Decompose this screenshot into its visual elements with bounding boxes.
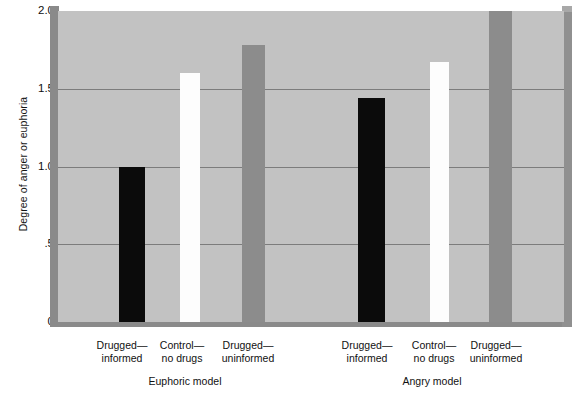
category-label-line1: Drugged—	[471, 339, 522, 351]
group-label: Euphoric model	[95, 375, 275, 387]
category-label-line1: Drugged—	[223, 339, 274, 351]
y-tick-1-0: 1.0	[18, 161, 54, 173]
bar	[358, 98, 385, 322]
category-label-group: Drugged—informedControl—no drugsDrugged—…	[0, 339, 586, 369]
category-label-line2: uninformed	[188, 352, 308, 365]
plot-frame	[50, 6, 578, 333]
group-label: Angry model	[342, 375, 522, 387]
bar-chart-figure: Degree of anger or euphoria 2.0 1.5 1.0 …	[0, 0, 586, 400]
plot-area	[58, 11, 564, 322]
bar	[180, 73, 200, 322]
y-tick-0: 0	[18, 316, 54, 328]
group-label-group: Euphoric modelAngry model	[0, 375, 586, 393]
y-tick-0-5: .5	[18, 238, 54, 250]
bar	[430, 62, 449, 322]
y-axis-tick-group: 2.0 1.5 1.0 .5 0	[14, 0, 54, 340]
category-label-line2: uninformed	[436, 352, 556, 365]
category-label: Drugged—uninformed	[188, 339, 308, 364]
category-label: Drugged—uninformed	[436, 339, 556, 364]
y-tick-2-0: 2.0	[18, 5, 54, 17]
y-tick-1-5: 1.5	[18, 83, 54, 95]
bar	[242, 45, 265, 322]
bar	[489, 11, 512, 322]
bar	[119, 167, 145, 323]
